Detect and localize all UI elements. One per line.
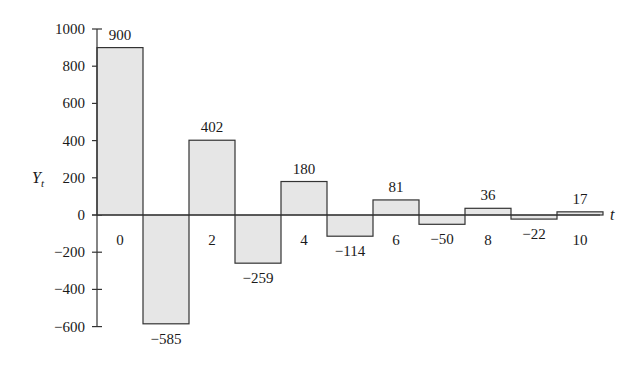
bar-t6 [373,200,419,215]
bar-t3 [235,215,281,263]
x-tick-label: 6 [392,232,400,248]
y-tick-label: 1000 [55,21,85,37]
y-axis-title: Yt [32,169,45,189]
data-label-t0: 900 [109,27,132,43]
y-tick-label: −600 [54,319,85,335]
bar-t4 [281,182,327,215]
data-label-t2: 402 [201,119,224,135]
bar-t0 [97,48,143,215]
bar-t7 [419,215,465,224]
x-tick-label: 8 [484,232,492,248]
y-tick-label: 0 [78,207,86,223]
data-label-t6: 81 [389,179,404,195]
x-tick-label: 2 [208,232,216,248]
bars [97,48,603,324]
bar-t8 [465,208,511,215]
data-label-t3: −259 [243,270,274,286]
x-tick-label: 10 [573,232,588,248]
y-tick-label: −200 [54,244,85,260]
bar-t1 [143,215,189,324]
y-tick-label: 800 [63,58,86,74]
data-label-t10: 17 [573,191,589,207]
x-axis-title: t [610,206,615,223]
chart: 10008006004002000−200−400−600 900−585402… [0,0,635,373]
y-tick-label: −400 [54,281,85,297]
x-tick-label: 0 [116,232,124,248]
y-tick-label: 600 [63,95,86,111]
bar-t2 [189,140,235,215]
data-label-t9: −22 [522,226,545,242]
y-axis-ticks: 10008006004002000−200−400−600 [54,21,102,335]
data-label-t8: 36 [481,187,497,203]
y-tick-label: 400 [63,133,86,149]
bar-t5 [327,215,373,236]
data-label-t4: 180 [293,161,316,177]
x-tick-label: 4 [300,232,308,248]
bar-t9 [511,215,557,219]
data-label-t7: −50 [430,231,453,247]
data-label-t5: −114 [335,243,366,259]
data-label-t1: −585 [151,331,182,347]
y-tick-label: 200 [63,170,86,186]
